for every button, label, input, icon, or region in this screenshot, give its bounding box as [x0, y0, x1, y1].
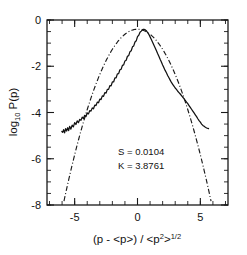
measured-data-curve [62, 29, 209, 133]
chart-figure: -505 0-2-4-6-8 S = 0.0104 K = 3.8761 (p … [0, 0, 247, 255]
x-axis-title: (p - <p>) / <p2>1/2 [93, 232, 181, 245]
y-tick-label: -8 [31, 199, 41, 211]
y-tick-label: -2 [31, 60, 41, 72]
plot-frame [47, 20, 228, 205]
y-axis-title: log10 P(p) [7, 88, 22, 137]
y-tick-label: 0 [35, 14, 41, 26]
y-axis-major-ticks [47, 20, 228, 205]
annotation-kurtosis: K = 3.8761 [118, 160, 164, 171]
y-axis-minor-ticks [47, 20, 228, 205]
x-axis-tick-labels: -505 [70, 211, 204, 223]
y-tick-label: -6 [31, 153, 41, 165]
x-axis-minor-ticks [50, 20, 226, 205]
x-tick-label: 0 [134, 211, 140, 223]
chart-annotations: S = 0.0104 K = 3.8761 [118, 146, 164, 171]
x-axis-major-ticks [75, 20, 201, 205]
annotation-skewness: S = 0.0104 [118, 146, 164, 157]
y-tick-label: -4 [31, 107, 41, 119]
probability-distribution-chart: -505 0-2-4-6-8 S = 0.0104 K = 3.8761 (p … [0, 0, 247, 255]
y-axis-tick-labels: 0-2-4-6-8 [31, 14, 41, 211]
x-tick-label: 5 [197, 211, 203, 223]
x-tick-label: -5 [70, 211, 80, 223]
